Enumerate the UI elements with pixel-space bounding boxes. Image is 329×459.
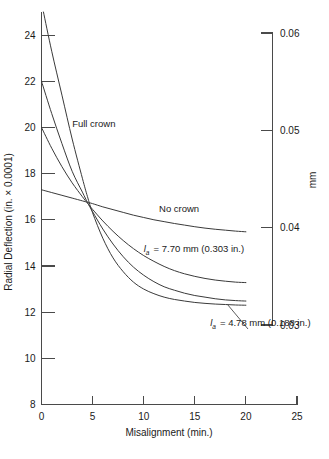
y2-tick-label-0.06: 0.06 <box>280 28 300 39</box>
y-tick-label-22: 22 <box>24 76 36 87</box>
y2-tick-label-0.05: 0.05 <box>280 125 300 136</box>
curve-no-crown <box>42 190 246 232</box>
y-tick-label-16: 16 <box>24 214 36 225</box>
y-axis-right-ticks <box>261 33 273 325</box>
x-tick-label-25: 25 <box>291 411 303 422</box>
y-tick-label-10: 10 <box>24 353 36 364</box>
y-tick-label-14: 14 <box>24 261 36 272</box>
radial-deflection-vs-misalignment-plot: 81012141618202224 Radial Deflection (in.… <box>0 0 329 459</box>
annotation-text: = 4.78 mm (0.188 in.) <box>217 317 310 328</box>
x-axis-tick-labels: 0510152025 <box>39 411 303 422</box>
annotation-text: = 7.70 mm (0.303 in.) <box>151 243 244 254</box>
x-axis: 0510152025 Misalignment (min.) <box>39 396 303 439</box>
y-tick-label-20: 20 <box>24 122 36 133</box>
annotation-3: la = 4.78 mm (0.188 in.) <box>210 317 310 330</box>
y-axis-right-title: mm <box>307 172 318 189</box>
y-axis-left-ticks <box>42 35 55 404</box>
y-tick-label-24: 24 <box>24 30 36 41</box>
data-curves <box>42 12 246 305</box>
curve-la-7-70 <box>42 127 246 282</box>
x-tick-label-5: 5 <box>90 411 96 422</box>
y-tick-label-8: 8 <box>30 399 36 410</box>
annotation-subscript: a <box>146 249 150 256</box>
y-tick-label-12: 12 <box>24 307 36 318</box>
x-tick-label-20: 20 <box>240 411 252 422</box>
y-axis-right-tick-labels: 0.030.040.050.06 <box>280 28 300 331</box>
annotation-1: No crown <box>159 203 199 214</box>
annotation-subscript: a <box>212 323 216 330</box>
y-tick-label-18: 18 <box>24 168 36 179</box>
y-axis-left-title: Radial Deflection (in. × 0.0001) <box>3 153 14 291</box>
curve-full-crown <box>43 12 245 305</box>
y2-tick-label-0.04: 0.04 <box>280 222 300 233</box>
x-tick-label-15: 15 <box>189 411 201 422</box>
y-axis-left: 81012141618202224 Radial Deflection (in.… <box>3 12 55 410</box>
curve-la-4-78 <box>42 81 246 301</box>
chart-figure: 81012141618202224 Radial Deflection (in.… <box>0 0 329 459</box>
x-axis-ticks <box>93 396 297 405</box>
y-axis-left-tick-labels: 81012141618202224 <box>24 30 36 410</box>
annotation-2: la = 7.70 mm (0.303 in.) <box>144 243 244 256</box>
y-axis-right: 0.030.040.050.06 mm <box>261 28 319 331</box>
x-tick-label-0: 0 <box>39 411 45 422</box>
annotation-0: Full crown <box>72 118 115 129</box>
series-annotations: Full crownNo crownla = 7.70 mm (0.303 in… <box>72 118 310 329</box>
x-tick-label-10: 10 <box>138 411 150 422</box>
x-axis-title: Misalignment (min.) <box>125 427 212 438</box>
